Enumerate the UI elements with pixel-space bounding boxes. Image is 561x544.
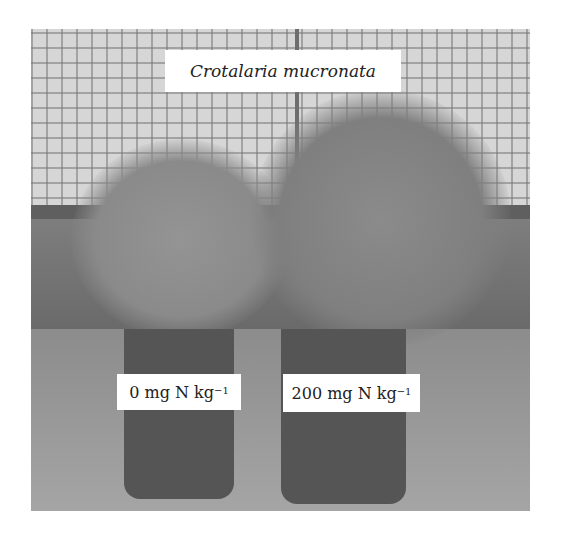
treatment-exponent: −1: [397, 386, 412, 397]
treatment-text: 200 mg N kg: [292, 384, 397, 403]
treatment-exponent: −1: [214, 385, 229, 396]
treatment-text: 0 mg N kg: [129, 383, 214, 402]
pot-right: [281, 329, 406, 504]
plant-photo: [31, 29, 530, 511]
species-title-label: Crotalaria mucronata: [165, 50, 401, 92]
treatment-label-200: 200 mg N kg−1: [283, 374, 420, 412]
species-name: Crotalaria mucronata: [190, 61, 376, 81]
treatment-label-0: 0 mg N kg−1: [117, 374, 241, 410]
plant-canopy-right: [251, 89, 511, 349]
pot-left: [124, 329, 234, 499]
